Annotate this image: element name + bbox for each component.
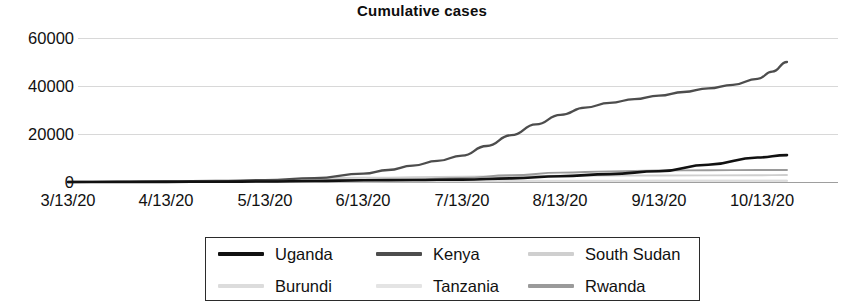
series-lines xyxy=(78,38,834,182)
y-tick-40000: 40000 xyxy=(0,78,74,95)
legend-label-rwanda: Rwanda xyxy=(585,277,646,296)
legend-swatch-kenya xyxy=(376,252,422,256)
x-tick-3: 6/13/20 xyxy=(335,191,390,211)
series-line-kenya xyxy=(68,62,787,182)
legend-swatch-south-sudan xyxy=(528,252,574,256)
y-tick-60000: 60000 xyxy=(0,30,74,47)
legend-label-burundi: Burundi xyxy=(275,277,332,296)
x-tick-7: 10/13/20 xyxy=(730,191,794,211)
y-tick-0: 0 xyxy=(0,174,74,191)
legend-item-kenya[interactable]: Kenya xyxy=(376,238,528,270)
x-tick-5: 8/13/20 xyxy=(532,191,587,211)
legend-item-uganda[interactable]: Uganda xyxy=(206,238,376,270)
legend-swatch-rwanda xyxy=(528,284,574,288)
legend-label-south-sudan: South Sudan xyxy=(585,245,680,264)
x-tick-4: 7/13/20 xyxy=(434,191,489,211)
x-tick-6: 9/13/20 xyxy=(631,191,686,211)
legend-item-rwanda[interactable]: Rwanda xyxy=(528,270,696,302)
plot-area xyxy=(78,38,834,182)
legend-item-tanzania[interactable]: Tanzania xyxy=(376,270,528,302)
legend-row-1: Uganda Kenya South Sudan xyxy=(206,238,699,270)
legend-label-kenya: Kenya xyxy=(433,245,480,264)
cumulative-cases-chart: Cumulative cases 60000 40000 20000 0 3/1… xyxy=(0,0,844,307)
legend-row-2: Burundi Tanzania Rwanda xyxy=(206,270,699,302)
legend-item-south-sudan[interactable]: South Sudan xyxy=(528,238,696,270)
series-line-uganda xyxy=(68,155,787,182)
x-axis: 3/13/20 4/13/20 5/13/20 6/13/20 7/13/20 … xyxy=(0,191,844,215)
legend-label-uganda: Uganda xyxy=(275,245,333,264)
x-tick-0: 3/13/20 xyxy=(40,191,95,211)
legend-swatch-tanzania xyxy=(376,284,422,288)
legend-swatch-burundi xyxy=(218,284,264,288)
legend-swatch-uganda xyxy=(218,252,264,256)
y-tick-20000: 20000 xyxy=(0,126,74,143)
chart-title: Cumulative cases xyxy=(0,2,844,19)
legend-label-tanzania: Tanzania xyxy=(433,277,499,296)
x-tick-2: 5/13/20 xyxy=(237,191,292,211)
legend-item-burundi[interactable]: Burundi xyxy=(206,270,376,302)
y-axis: 60000 40000 20000 0 xyxy=(0,0,74,200)
chart-legend: Uganda Kenya South Sudan Burundi Tanzani… xyxy=(205,237,700,301)
x-tick-1: 4/13/20 xyxy=(138,191,193,211)
